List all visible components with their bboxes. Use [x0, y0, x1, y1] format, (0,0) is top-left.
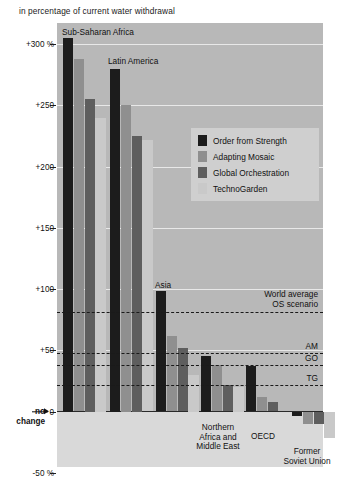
world-average-os-heading-line2: OS scenario: [272, 299, 318, 309]
legend-label: TechnoGarden: [213, 184, 267, 194]
gridline: [57, 44, 323, 45]
category-label-line: Africa and: [199, 432, 236, 442]
category-label: FormerSoviet Union: [272, 447, 342, 466]
world-average-label-am: AM: [268, 342, 318, 352]
category-label: Sub-Saharan Africa: [62, 28, 182, 38]
world-average-os-heading-line1: World average: [264, 289, 318, 299]
legend-swatch-icon: [198, 135, 207, 146]
legend-item[interactable]: TechnoGarden: [198, 183, 313, 194]
y-axis-tick-label: -50 %: [33, 468, 54, 477]
category-label-line: Asia: [155, 280, 171, 290]
y-axis-tick-label: +250: [36, 101, 54, 110]
bar: [212, 365, 222, 412]
legend-label: Order from Strength: [213, 136, 287, 146]
gridline: [57, 105, 323, 106]
no-change-line1: no: [35, 407, 45, 416]
world-average-line-tg: [57, 385, 323, 386]
world-average-line-os: [57, 312, 323, 313]
category-label-line: Latin America: [108, 56, 158, 66]
category-label-line: Former: [294, 446, 321, 456]
y-axis-tick-label: +300 %: [26, 40, 54, 49]
y-axis-tick-label: +150: [36, 223, 54, 232]
bar: [63, 38, 73, 412]
bar: [132, 136, 142, 412]
y-axis-tick-label: +50: [40, 346, 54, 355]
legend: Order from StrengthAdapting MosaicGlobal…: [191, 128, 319, 201]
legend-item[interactable]: Global Orchestration: [198, 167, 313, 178]
category-label: Latin America: [108, 57, 218, 67]
y-axis-tick-label: +100: [36, 285, 54, 294]
bar: [314, 412, 324, 424]
bar: [223, 385, 233, 412]
y-axis-tick-label: +200: [36, 162, 54, 171]
bar: [95, 118, 105, 412]
legend-swatch-icon: [198, 151, 207, 162]
y-axis-tick-label-zero: 0: [49, 407, 54, 416]
bar: [324, 412, 334, 439]
category-label-line: Sub-Saharan Africa: [62, 27, 134, 37]
category-label-line: Middle East: [196, 441, 239, 451]
bar: [156, 291, 166, 411]
category-label: OECD: [243, 432, 283, 442]
bar: [303, 412, 313, 424]
bar: [167, 336, 177, 412]
world-average-label-tg: TG: [268, 374, 318, 384]
category-label: Asia: [155, 281, 215, 291]
category-label-line: Northern: [202, 422, 234, 432]
bar: [178, 348, 188, 412]
legend-swatch-icon: [198, 167, 207, 178]
world-average-os-heading: World averageOS scenario: [233, 290, 318, 309]
category-label-line: Soviet Union: [283, 456, 330, 466]
no-change-label: no change: [16, 407, 45, 426]
bar: [257, 397, 267, 412]
legend-swatch-icon: [198, 183, 207, 194]
legend-label: Adapting Mosaic: [213, 152, 274, 162]
legend-item[interactable]: Order from Strength: [198, 135, 313, 146]
bar: [268, 402, 278, 412]
world-average-line-go: [57, 365, 323, 366]
bar: [233, 387, 243, 412]
chart-subtitle: in percentage of current water withdrawa…: [19, 6, 175, 16]
bar: [142, 140, 152, 412]
no-change-line2: change: [16, 417, 45, 426]
bar: [188, 375, 198, 412]
bar: [110, 69, 120, 412]
world-average-label-go: GO: [268, 354, 318, 364]
bar: [292, 412, 302, 417]
bar: [74, 59, 84, 412]
category-label-line: OECD: [251, 431, 275, 441]
legend-label: Global Orchestration: [213, 168, 289, 178]
bar: [246, 366, 256, 411]
legend-item[interactable]: Adapting Mosaic: [198, 151, 313, 162]
